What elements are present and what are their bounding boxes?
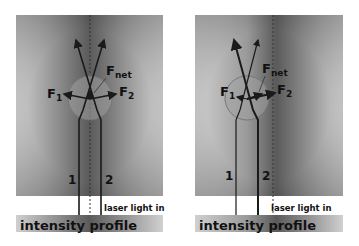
beam-2-label: 2: [105, 173, 113, 187]
beam-1-label: 1: [225, 169, 233, 183]
laser-light-label: laser light in: [271, 203, 332, 213]
laser-light-label: laser light in: [104, 203, 165, 213]
right-panel: F1 F2 Fnet 1 2 laser light in intensity …: [195, 15, 343, 233]
left-panel: F1 F2 Fnet 1 2 laser light in intensity …: [16, 15, 165, 233]
beam-2-label: 2: [262, 169, 270, 183]
intensity-profile-label: intensity profile: [20, 218, 137, 233]
optical-trap-diagram: F1 F2 Fnet 1 2 laser light in intensity …: [0, 0, 359, 246]
intensity-profile-label: intensity profile: [199, 218, 316, 233]
beam-1-label: 1: [68, 173, 76, 187]
